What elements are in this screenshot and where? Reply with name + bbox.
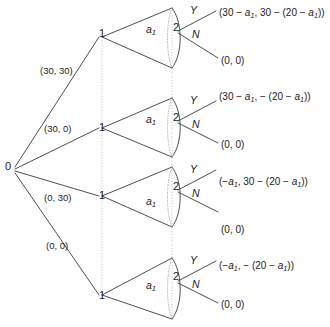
subtree-3 (102, 167, 218, 227)
root-branch-2 (15, 128, 99, 169)
action-no-label-3: N (192, 188, 200, 199)
action-no-label-2: N (192, 119, 200, 130)
fan-arc-2 (172, 98, 180, 157)
fan-action-label-4: a1 (146, 280, 156, 292)
node-player2-2: 2 (173, 112, 179, 123)
subtree-1 (102, 8, 218, 68)
subtree-2 (102, 98, 218, 157)
payoff-no-3: (0, 0) (221, 225, 244, 235)
node-player1-4: 1 (99, 290, 105, 301)
fan-lower-edge-3 (102, 196, 172, 227)
payoff-yes-4: (−a1, − (20 − a1)) (219, 261, 294, 272)
node-player2-1: 2 (173, 22, 179, 33)
node-player1-1: 1 (99, 28, 105, 39)
branch-label-2: (30, 0) (44, 124, 71, 134)
root-branch-1 (15, 37, 99, 167)
fan-arc-dotted-chord-2 (168, 98, 173, 157)
node-player1-3: 1 (99, 190, 105, 201)
subtree-4 (102, 258, 218, 319)
fan-upper-edge-3 (102, 167, 172, 196)
fan-arc-4 (172, 258, 180, 319)
fan-arc-1 (172, 8, 180, 68)
fan-arc-dotted-chord-3 (168, 167, 173, 227)
fan-upper-edge-4 (102, 258, 172, 295)
game-tree-canvas (0, 0, 330, 327)
fan-action-label-1: a1 (146, 24, 156, 36)
fan-action-label-3: a1 (146, 196, 156, 208)
action-no-label-4: N (192, 279, 200, 290)
branch-label-3: (0, 30) (44, 193, 71, 203)
fan-arc-dotted-chord-1 (168, 8, 173, 68)
action-yes-label-4: Y (190, 255, 197, 266)
payoff-yes-1: (30 − a1, 30 − (20 − a1)) (219, 8, 325, 19)
branch-label-1: (30, 30) (40, 66, 73, 76)
action-yes-label-3: Y (190, 164, 197, 175)
game-tree-figure: 0 (30, 30) 1 a1 2 Y N (30 − a1, 30 − (20… (0, 0, 330, 327)
node-root: 0 (5, 161, 11, 172)
fan-upper-edge-2 (102, 98, 172, 128)
node-player2-3: 2 (173, 181, 179, 192)
payoff-no-2: (0, 0) (221, 140, 244, 150)
fan-lower-edge-2 (102, 128, 172, 157)
information-set-lines (102, 10, 172, 318)
fan-arc-3 (172, 167, 180, 227)
action-no-label-1: N (192, 29, 200, 40)
payoff-no-1: (0, 0) (221, 56, 244, 66)
payoff-no-4: (0, 0) (221, 300, 244, 310)
payoff-yes-3: (−a1, 30 − (20 − a1)) (219, 177, 308, 188)
fan-lower-edge-4 (102, 295, 172, 319)
node-player1-2: 1 (99, 122, 105, 133)
branch-label-4: (0, 0) (46, 241, 68, 251)
action-yes-label-2: Y (190, 95, 197, 106)
payoff-yes-2: (30 − a1, − (20 − a1)) (219, 92, 311, 103)
fan-arc-dotted-chord-4 (168, 258, 173, 319)
fan-lower-edge-1 (102, 37, 172, 68)
action-yes-label-1: Y (190, 5, 197, 16)
fan-action-label-2: a1 (146, 114, 156, 126)
node-player2-4: 2 (173, 271, 179, 282)
fan-upper-edge-1 (102, 8, 172, 37)
